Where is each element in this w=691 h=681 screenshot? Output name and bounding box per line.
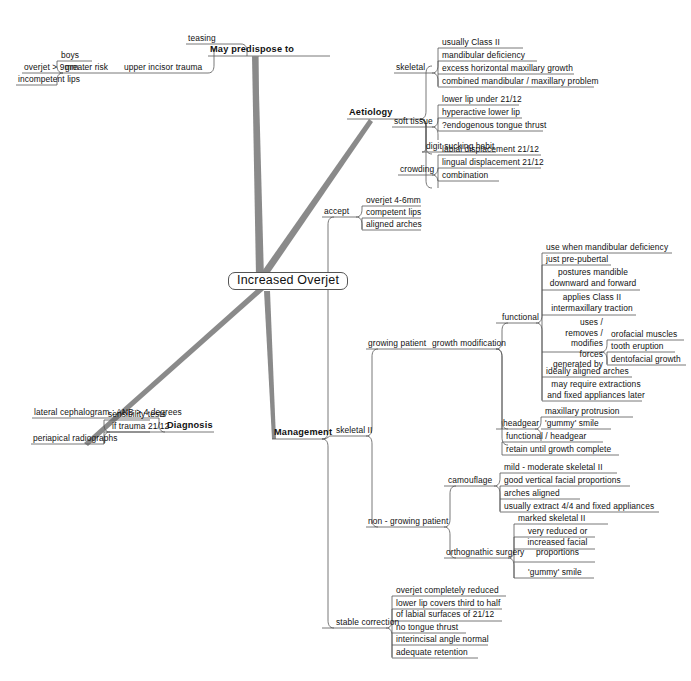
node-usually-extract-44[interactable]: usually extract 4/4 and fixed appliances xyxy=(502,501,656,512)
node-functional[interactable]: functional xyxy=(500,312,541,323)
node-hyperactive-lower-lip[interactable]: hyperactive lower lip xyxy=(440,107,522,118)
node-may-require-extractions[interactable]: may require extractions and fixed applia… xyxy=(544,379,648,400)
mindmap-canvas: Increased Overjet May predispose to teas… xyxy=(0,0,691,681)
node-skeletal-ii[interactable]: skeletal II xyxy=(334,425,374,436)
node-camouflage[interactable]: camouflage xyxy=(446,475,494,486)
node-stable-correction[interactable]: stable correction xyxy=(334,617,401,628)
topic-management[interactable]: Management xyxy=(272,427,334,438)
central-node[interactable]: Increased Overjet xyxy=(228,272,348,290)
node-boys[interactable]: boys xyxy=(59,50,81,61)
node-accept[interactable]: accept xyxy=(322,206,351,217)
node-gummy-smile-surgery[interactable]: 'gummy' smile xyxy=(526,567,584,578)
node-interincisal-angle-normal[interactable]: interincisal angle normal xyxy=(394,634,491,645)
node-no-tongue-thrust[interactable]: no tongue thrust xyxy=(394,622,460,633)
node-excess-horizontal-maxillary-growth[interactable]: excess horizontal maxillary growth xyxy=(440,63,575,74)
node-periapical-radiographs[interactable]: periapical radiographs xyxy=(31,433,120,444)
node-combined-mandibular-maxillary-problem[interactable]: combined mandibular / maxillary problem xyxy=(440,76,601,87)
node-ideally-aligned-arches[interactable]: ideally aligned arches xyxy=(544,366,631,377)
node-postures-mandible[interactable]: postures mandible downward and forward xyxy=(544,267,642,288)
node-uses-removes-modifies-forces[interactable]: uses / removes / modifies forces generat… xyxy=(544,317,605,370)
node-overjet-completely-reduced[interactable]: overjet completely reduced xyxy=(394,585,501,596)
node-skeletal[interactable]: skeletal xyxy=(394,62,427,73)
node-if-trauma-2112[interactable]: if trauma 21/12 xyxy=(110,421,171,432)
topic-may-predispose-to[interactable]: May predispose to xyxy=(208,44,296,55)
node-good-vertical-facial-proportions[interactable]: good vertical facial proportions xyxy=(502,475,623,486)
node-arches-aligned[interactable]: arches aligned xyxy=(502,488,562,499)
topic-aetiology[interactable]: Aetiology xyxy=(347,107,395,118)
node-overjet-9mm[interactable]: overjet > 9mm xyxy=(22,62,81,73)
node-upper-incisor-trauma[interactable]: upper incisor trauma xyxy=(122,62,204,73)
topic-diagnosis[interactable]: Diagnosis xyxy=(165,420,215,431)
node-dentofacial-growth[interactable]: dentofacial growth xyxy=(609,354,683,365)
node-lower-lip-covers-third-to-half[interactable]: lower lip covers third to half of labial… xyxy=(394,598,506,619)
node-lower-lip-under-2112[interactable]: lower lip under 21/12 xyxy=(440,94,524,105)
node-crowding[interactable]: crowding xyxy=(398,164,436,175)
node-orthognathic-surgery[interactable]: orthognathic surgery xyxy=(444,547,526,558)
node-competent-lips[interactable]: competent lips xyxy=(364,207,423,218)
node-growing-patient[interactable]: growing patient xyxy=(366,338,428,349)
node-mandibular-deficiency[interactable]: mandibular deficiency xyxy=(440,50,527,61)
node-growth-modification[interactable]: growth modification xyxy=(430,338,508,349)
node-tooth-eruption[interactable]: tooth eruption xyxy=(609,341,666,352)
node-endogenous-tongue-thrust[interactable]: ?endogenous tongue thrust xyxy=(440,120,548,131)
node-retain-until-growth-complete[interactable]: retain until growth complete xyxy=(504,444,613,455)
node-very-reduced-or-increased-facial-proportions[interactable]: very reduced or increased facial proport… xyxy=(516,526,599,558)
node-adequate-retention[interactable]: adequate retention xyxy=(394,647,470,658)
node-gummy-smile-headgear[interactable]: 'gummy' smile xyxy=(543,418,601,429)
node-usually-class-ii[interactable]: usually Class II xyxy=(440,37,502,48)
node-sensibility-tests[interactable]: sensibility tests xyxy=(106,409,168,420)
node-soft-tissue[interactable]: soft tissue xyxy=(392,116,435,127)
node-incompetent-lips[interactable]: incompetent lips xyxy=(16,74,82,85)
node-mild-moderate-skeletal-ii[interactable]: mild - moderate skeletal II xyxy=(502,462,605,473)
node-applies-class-ii-traction[interactable]: applies Class II intermaxillary traction xyxy=(544,292,640,313)
node-labial-displacement-2112[interactable]: labial displacement 21/12 xyxy=(440,144,541,155)
node-non-growing-patient[interactable]: non - growing patient xyxy=(366,516,450,527)
node-aligned-arches[interactable]: aligned arches xyxy=(364,219,424,230)
node-just-pre-pubertal[interactable]: just pre-pubertal xyxy=(544,254,610,265)
node-maxillary-protrusion[interactable]: maxillary protrusion xyxy=(543,406,622,417)
node-overjet-4-6mm[interactable]: overjet 4-6mm xyxy=(364,195,423,206)
node-teasing[interactable]: teasing xyxy=(186,33,218,44)
node-orofacial-muscles[interactable]: orofacial muscles xyxy=(609,329,679,340)
node-marked-skeletal-ii[interactable]: marked skeletal II xyxy=(516,513,587,524)
node-lingual-displacement-2112[interactable]: lingual displacement 21/12 xyxy=(440,157,546,168)
node-combination[interactable]: combination xyxy=(440,170,490,181)
node-headgear[interactable]: headgear xyxy=(501,418,541,429)
node-use-when-mandibular-deficiency[interactable]: use when mandibular deficiency xyxy=(544,242,670,253)
node-functional-headgear[interactable]: functional / headgear xyxy=(504,431,588,442)
